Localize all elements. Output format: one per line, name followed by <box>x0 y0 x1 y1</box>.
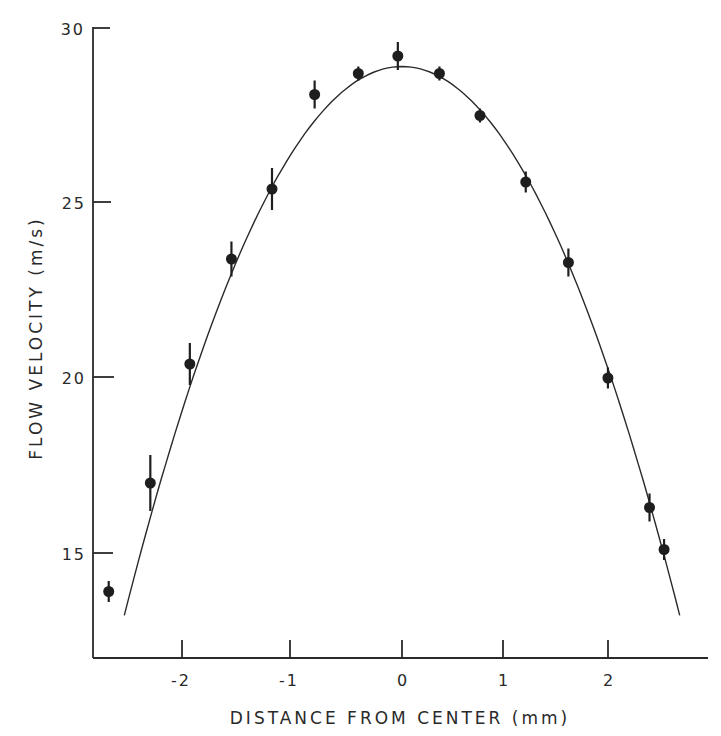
y-ticks: 30 25 20 15 <box>61 20 114 564</box>
data-point <box>226 242 237 277</box>
point-marker <box>659 544 670 555</box>
x-ticks: -2 -1 0 1 2 <box>171 640 615 690</box>
point-marker <box>563 257 574 268</box>
point-marker <box>644 502 655 513</box>
data-point <box>520 172 531 193</box>
x-tick-label--1: -1 <box>279 671 299 690</box>
point-marker <box>103 586 114 597</box>
data-point <box>184 343 195 385</box>
y-axis-title: FLOW VELOCITY (m/s) <box>26 216 46 459</box>
x-tick-label-0: 0 <box>397 671 409 690</box>
x-tick-label-1: 1 <box>498 671 510 690</box>
axes <box>93 27 708 658</box>
y-tick-label-20: 20 <box>62 369 86 388</box>
data-points <box>103 42 669 602</box>
point-marker <box>226 254 237 265</box>
parabolic-fit-curve <box>124 67 679 616</box>
flow-velocity-chart: 30 25 20 15 -2 -1 0 1 2 DISTANCE FROM CE… <box>0 0 721 736</box>
y-tick-label-30: 30 <box>61 20 85 39</box>
point-marker <box>353 68 364 79</box>
data-point <box>392 42 403 70</box>
point-marker <box>434 68 445 79</box>
data-point <box>602 368 613 389</box>
data-point <box>309 81 320 109</box>
data-point <box>267 168 278 210</box>
point-marker <box>145 478 156 489</box>
point-marker <box>392 51 403 62</box>
data-point <box>103 581 114 602</box>
point-marker <box>309 89 320 100</box>
x-tick-label-2: 2 <box>603 671 615 690</box>
point-marker <box>602 373 613 384</box>
point-marker <box>475 110 486 121</box>
point-marker <box>184 359 195 370</box>
x-axis-title: DISTANCE FROM CENTER (mm) <box>230 708 570 728</box>
x-tick-label--2: -2 <box>171 671 191 690</box>
y-tick-label-25: 25 <box>62 194 86 213</box>
data-point <box>475 109 486 123</box>
y-tick-label-15: 15 <box>62 545 86 564</box>
point-marker <box>520 177 531 188</box>
point-marker <box>267 184 278 195</box>
